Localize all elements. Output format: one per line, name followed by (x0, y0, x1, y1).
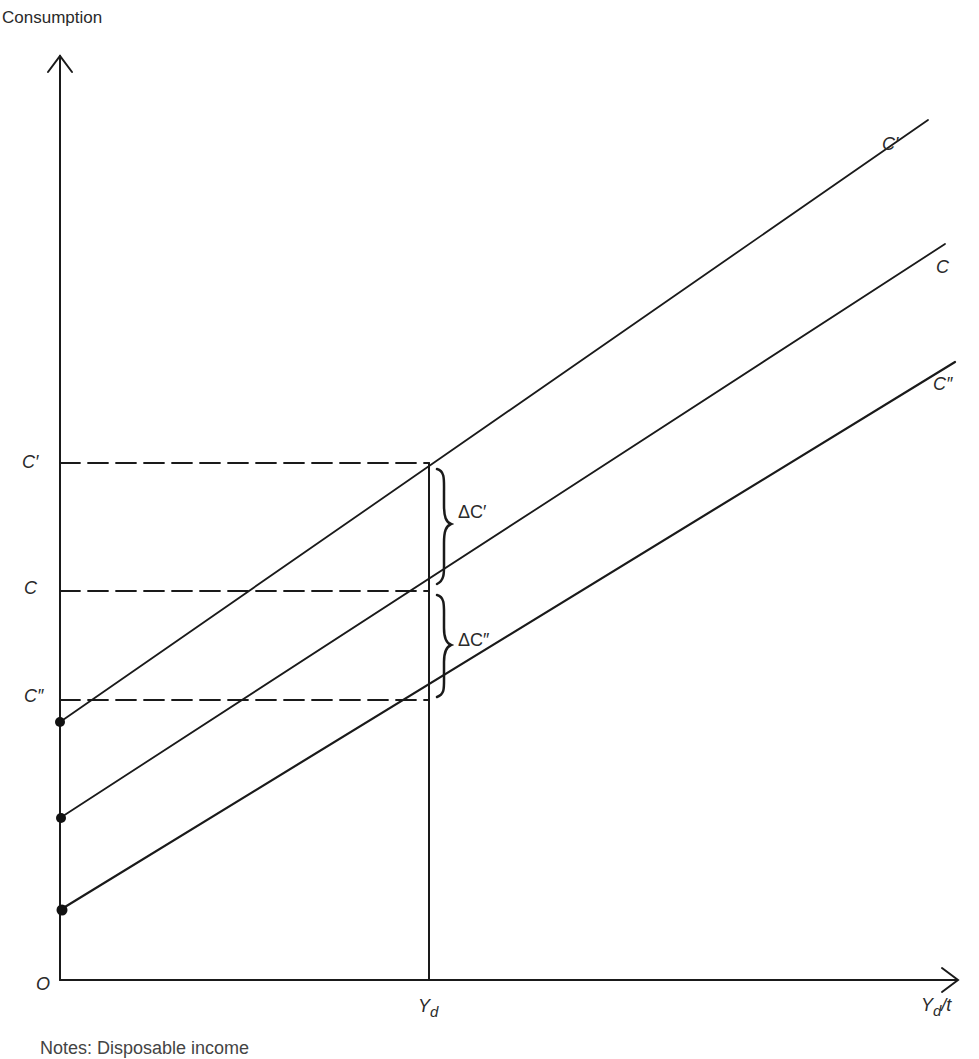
x-tick-yd: Yd (418, 996, 438, 1020)
line-c (60, 244, 945, 818)
origin-label: O (36, 974, 50, 995)
delta-c-prime-label: ΔC′ (458, 502, 486, 523)
line-c-prime (60, 120, 928, 722)
caption-fragment: Notes: Disposable income (40, 1038, 249, 1059)
x-axis-label: Yd/t (921, 995, 951, 1019)
x-tick-yd-sub: d (430, 1003, 438, 1020)
delta-c-double-text: ΔC″ (458, 630, 489, 650)
y-tick-c-prime: C′ (22, 452, 38, 473)
brace-delta-c-double (437, 595, 451, 697)
delta-c-prime-text: ΔC′ (458, 502, 486, 522)
intercept-dot-c-double (57, 905, 68, 916)
y-tick-c: C (24, 578, 37, 599)
line-c-double (60, 362, 955, 910)
line-label-c-double: C″ (933, 374, 952, 395)
x-axis-label-main: Y (921, 995, 933, 1015)
x-axis-label-suffix: /t (941, 995, 951, 1015)
intercept-dot-c (56, 813, 66, 823)
x-tick-yd-main: Y (418, 996, 430, 1016)
delta-c-double-label: ΔC″ (458, 630, 489, 651)
intercept-dot-c-prime (55, 717, 65, 727)
y-tick-c-double: C″ (24, 686, 43, 707)
y-axis-label: Consumption (2, 8, 102, 28)
line-label-c-prime: C′ (882, 134, 898, 155)
line-label-c: C (936, 257, 949, 278)
